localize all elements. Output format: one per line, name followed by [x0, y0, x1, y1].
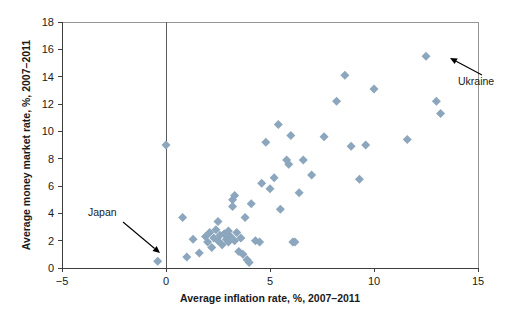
data-point-marker — [307, 171, 316, 180]
data-point-marker — [332, 97, 341, 106]
x-tick-label: 15 — [472, 275, 484, 287]
data-point-marker — [241, 213, 250, 222]
x-tick-label: 0 — [163, 275, 169, 287]
annotation-ukraine: Ukraine — [450, 58, 494, 87]
data-point-marker — [295, 188, 304, 197]
data-point-marker — [261, 138, 270, 147]
data-point-marker — [189, 235, 198, 244]
scatter-plot-figure: JapanUkraine 024681012141618−5051015Aver… — [0, 0, 520, 313]
data-point-marker — [361, 141, 370, 150]
data-point-marker — [270, 173, 279, 182]
data-point-marker — [182, 253, 191, 262]
x-tick-label: 10 — [368, 275, 380, 287]
annotation-arrow-japan — [123, 222, 155, 249]
data-point-marker — [355, 175, 364, 184]
annotation-label-ukraine: Ukraine — [458, 75, 494, 87]
data-point-marker — [299, 156, 308, 165]
data-point-marker — [257, 179, 266, 188]
data-point-marker — [403, 135, 412, 144]
data-point-marker — [247, 199, 256, 208]
data-point-marker — [162, 141, 171, 150]
annotation-japan: Japan — [88, 206, 160, 253]
y-tick-label: 8 — [48, 153, 54, 165]
annotation-label-japan: Japan — [88, 206, 117, 218]
chart-canvas: JapanUkraine 024681012141618−5051015Aver… — [0, 0, 520, 313]
y-tick-label: 6 — [48, 180, 54, 192]
data-point-marker — [432, 97, 441, 106]
data-point-marker — [436, 109, 445, 118]
data-point-marker — [214, 217, 223, 226]
data-point-marker — [370, 84, 379, 93]
x-axis-title: Average inflation rate, %, 2007–2011 — [180, 292, 360, 304]
data-point-marker — [153, 257, 162, 266]
data-point-marker — [422, 52, 431, 61]
data-point-marker — [286, 131, 295, 140]
data-point-marker — [276, 205, 285, 214]
data-markers-layer — [153, 52, 445, 267]
data-point-marker — [266, 184, 275, 193]
data-point-marker — [274, 120, 283, 129]
data-point-marker — [320, 132, 329, 141]
axis-labels-layer: 024681012141618−5051015Average inflation… — [20, 16, 484, 304]
y-tick-label: 4 — [48, 207, 54, 219]
annotations-layer: JapanUkraine — [88, 58, 494, 253]
y-tick-label: 2 — [48, 235, 54, 247]
data-point-marker — [347, 142, 356, 151]
data-point-marker — [195, 248, 204, 257]
x-tick-label: 5 — [267, 275, 273, 287]
y-tick-label: 0 — [48, 262, 54, 274]
y-tick-label: 12 — [42, 98, 54, 110]
axes-layer — [58, 22, 478, 272]
data-point-marker — [178, 213, 187, 222]
y-tick-label: 16 — [42, 43, 54, 55]
y-tick-label: 18 — [42, 16, 54, 28]
data-point-marker — [340, 71, 349, 80]
y-axis-title: Average money market rate, %, 2007–2011 — [20, 40, 32, 250]
x-tick-label: −5 — [56, 275, 69, 287]
y-tick-label: 10 — [42, 125, 54, 137]
y-tick-label: 14 — [42, 71, 54, 83]
